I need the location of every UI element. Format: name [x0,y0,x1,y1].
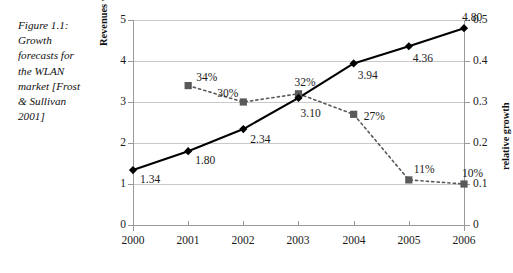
chart-canvas: 5 4 3 2 1 0 0.5 0.4 0.3 0.2 0.1 0 2000 2… [104,0,505,273]
revenue-marker [460,24,468,32]
growth-marker [460,180,467,187]
revenue-marker [129,166,137,174]
growth-value-label: 32% [295,76,316,88]
growth-value-label: 10% [462,167,483,179]
revenue-value-label: 4.36 [413,52,433,64]
revenue-value-label: 4.80 [462,11,482,23]
series-layer [104,0,505,273]
revenue-value-label: 3.10 [301,107,321,119]
growth-marker [350,111,357,118]
revenue-value-label: 3.94 [358,69,378,81]
revenue-markers [129,24,468,174]
revenue-value-label: 1.34 [140,173,160,185]
revenue-marker [405,42,413,50]
revenue-value-label: 1.80 [195,154,215,166]
growth-value-label: 11% [414,163,435,175]
growth-value-label: 30% [217,87,238,99]
growth-value-label: 27% [364,110,385,122]
growth-marker [185,82,192,89]
growth-marker [405,176,412,183]
revenue-marker [184,147,192,155]
revenue-value-label: 2.34 [250,133,270,145]
growth-marker [240,98,247,105]
revenue-marker [239,125,247,133]
growth-value-label: 34% [196,71,217,83]
